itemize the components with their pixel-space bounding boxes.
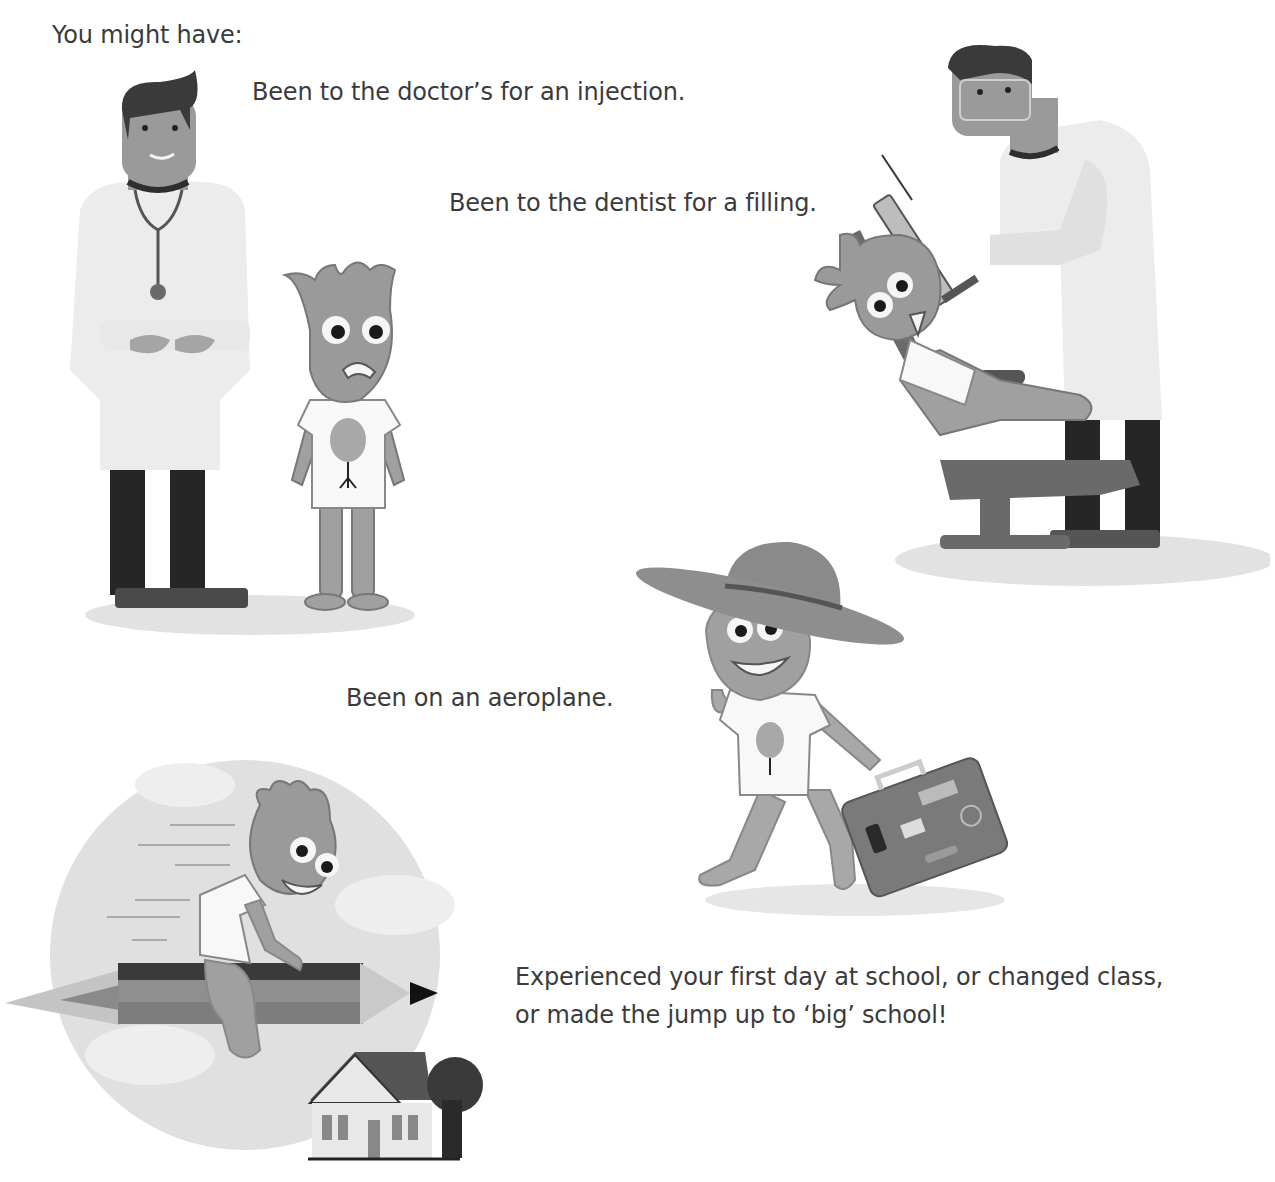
ground-shadow (705, 884, 1005, 916)
dentist-illustration (800, 40, 1270, 590)
caption-aeroplane: Been on an aeroplane. (346, 679, 613, 717)
school-illustration (0, 745, 500, 1175)
caption-school-line1: Experienced your first day at school, or… (515, 958, 1163, 996)
worried-character (285, 263, 404, 611)
doctor-figure (70, 70, 250, 608)
caption-dentist: Been to the dentist for a filling. (449, 184, 817, 222)
doctor-illustration (40, 70, 460, 650)
tree-icon (427, 1057, 483, 1158)
traveller-character (699, 600, 880, 889)
intro-text: You might have: (52, 16, 243, 54)
traveller-illustration (630, 540, 1030, 940)
caption-school: Experienced your first day at school, or… (515, 958, 1163, 1034)
suitcase-icon (835, 743, 1010, 899)
caption-school-line2: or made the jump up to ‘big’ school! (515, 996, 1163, 1034)
